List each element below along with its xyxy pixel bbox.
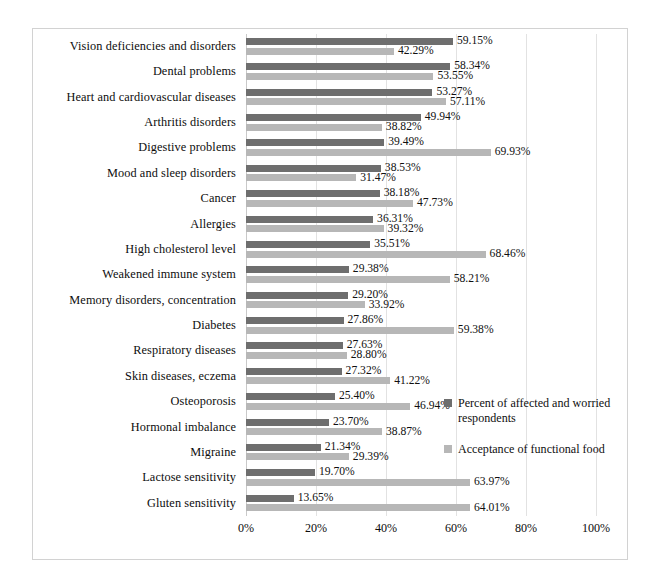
bar-row: Vision deficiencies and disorders59.15%4… [246, 34, 596, 59]
bar-row: Arthritis disorders49.94%38.82% [246, 110, 596, 135]
bar-affected [246, 216, 373, 223]
bar-value-label: 27.32% [346, 365, 382, 376]
category-label: Heart and cardiovascular diseases [66, 85, 236, 110]
category-label: Diabetes [192, 313, 236, 338]
bar-value-label: 35.51% [374, 238, 410, 249]
bar-value-label: 23.70% [333, 416, 369, 427]
bar-acceptance [246, 98, 446, 105]
bar-affected [246, 139, 384, 146]
bar-affected [246, 190, 380, 197]
category-label: Digestive problems [138, 135, 236, 160]
bar-acceptance [246, 327, 454, 334]
bar-row: Memory disorders, concentration29.20%33.… [246, 288, 596, 313]
bar-row: Digestive problems39.49%69.93% [246, 135, 596, 160]
bar-acceptance [246, 301, 365, 308]
bar-value-label: 58.21% [454, 273, 490, 284]
legend-entry[interactable]: Percent of affected and worried responde… [444, 396, 630, 426]
bar-acceptance [246, 453, 349, 460]
bar-value-label: 38.82% [386, 121, 422, 132]
bar-row: Skin diseases, eczema27.32%41.22% [246, 364, 596, 389]
bar-row: Weakened immune system29.38%58.21% [246, 262, 596, 287]
category-label: High cholesterol level [125, 237, 236, 262]
category-label: Memory disorders, concentration [69, 288, 236, 313]
bar-acceptance [246, 403, 410, 410]
legend-swatch-icon [444, 399, 452, 407]
bar-value-label: 53.55% [437, 70, 473, 81]
bar-value-label: 28.80% [351, 349, 387, 360]
bar-acceptance [246, 200, 413, 207]
bar-value-label: 38.87% [386, 426, 422, 437]
category-label: Allergies [190, 212, 236, 237]
bar-value-label: 63.97% [474, 476, 510, 487]
bar-value-label: 64.01% [474, 502, 510, 513]
bar-value-label: 38.18% [384, 187, 420, 198]
legend-entry[interactable]: Acceptance of functional food [444, 442, 630, 457]
category-label: Respiratory diseases [133, 338, 236, 363]
bar-affected [246, 393, 335, 400]
bar-acceptance [246, 352, 347, 359]
bar-row: High cholesterol level35.51%68.46% [246, 237, 596, 262]
bar-acceptance [246, 504, 470, 511]
bar-value-label: 29.39% [353, 451, 389, 462]
x-tick-label: 40% [375, 521, 397, 536]
bar-row: Allergies36.31%39.32% [246, 212, 596, 237]
category-label: Dental problems [153, 59, 236, 84]
bar-value-label: 42.29% [398, 45, 434, 56]
bar-value-label: 19.70% [319, 466, 355, 477]
bar-value-label: 31.47% [360, 172, 396, 183]
legend-label: Percent of affected and worried responde… [458, 396, 630, 426]
bar-acceptance [246, 276, 450, 283]
bar-acceptance [246, 174, 356, 181]
bar-affected [246, 444, 321, 451]
bar-affected [246, 266, 349, 273]
x-tick-label: 60% [445, 521, 467, 536]
bar-affected [246, 317, 344, 324]
bar-affected [246, 241, 370, 248]
bar-row: Heart and cardiovascular diseases53.27%5… [246, 85, 596, 110]
category-label: Mood and sleep disorders [107, 161, 236, 186]
bar-value-label: 29.38% [353, 263, 389, 274]
bar-affected [246, 89, 432, 96]
bar-value-label: 49.94% [425, 111, 461, 122]
category-label: Vision deficiencies and disorders [70, 34, 236, 59]
bar-value-label: 39.49% [388, 136, 424, 147]
bar-acceptance [246, 251, 486, 258]
bar-value-label: 41.22% [394, 375, 430, 386]
bar-value-label: 27.86% [348, 314, 384, 325]
bar-row: Mood and sleep disorders38.53%31.47% [246, 161, 596, 186]
legend-swatch-icon [444, 445, 452, 453]
bar-value-label: 25.40% [339, 390, 375, 401]
chart-legend: Percent of affected and worried responde… [444, 396, 630, 473]
bar-affected [246, 63, 450, 70]
category-label: Gluten sensitivity [147, 491, 236, 516]
bar-row: Dental problems58.34%53.55% [246, 59, 596, 84]
bar-value-label: 68.46% [490, 248, 526, 259]
category-label: Hormonal imbalance [131, 415, 236, 440]
bar-value-label: 59.38% [458, 324, 494, 335]
bar-acceptance [246, 73, 433, 80]
bar-affected [246, 368, 342, 375]
bar-acceptance [246, 377, 390, 384]
bar-row: Cancer38.18%47.73% [246, 186, 596, 211]
chart-frame: Vision deficiencies and disorders59.15%4… [32, 28, 628, 560]
category-label: Migraine [190, 440, 236, 465]
bar-acceptance [246, 149, 491, 156]
x-tick-label: 80% [515, 521, 537, 536]
bar-value-label: 69.93% [495, 146, 531, 157]
category-label: Lactose sensitivity [142, 465, 236, 490]
bar-acceptance [246, 428, 382, 435]
legend-label: Acceptance of functional food [458, 442, 605, 457]
bar-acceptance [246, 48, 394, 55]
bar-row: Diabetes27.86%59.38% [246, 313, 596, 338]
category-label: Weakened immune system [102, 262, 236, 287]
bar-affected [246, 469, 315, 476]
bar-acceptance [246, 124, 382, 131]
x-axis: 0%20%40%60%80%100% [246, 521, 596, 543]
category-label: Cancer [201, 186, 236, 211]
bar-value-label: 59.15% [457, 35, 493, 46]
x-tick-label: 100% [582, 521, 610, 536]
bar-value-label: 57.11% [450, 96, 485, 107]
bar-affected [246, 292, 348, 299]
bar-value-label: 13.65% [298, 492, 334, 503]
category-label: Skin diseases, eczema [125, 364, 236, 389]
